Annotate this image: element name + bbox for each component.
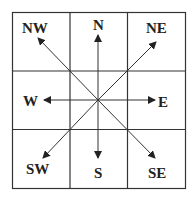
label-e: E [158,94,168,110]
arrow-nw [38,38,98,100]
label-w: W [23,93,38,109]
arrows [38,35,156,158]
label-n: N [93,17,104,33]
label-ne: NE [146,20,167,36]
label-se: SE [148,165,166,181]
compass-diagram: NW N NE W E SW S SE [0,0,194,197]
label-sw: SW [26,161,49,177]
label-nw: NW [22,20,48,36]
label-s: S [94,165,102,181]
